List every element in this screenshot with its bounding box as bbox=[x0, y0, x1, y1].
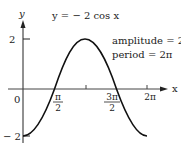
tick-label-3pi-half-den: 2 bbox=[109, 103, 115, 113]
tick-label-pi-half-den: 2 bbox=[55, 103, 61, 113]
x-axis-label: x bbox=[172, 83, 178, 94]
tick-label-3pi-half-num: 3π bbox=[106, 92, 118, 102]
origin-label: 0 bbox=[14, 94, 20, 105]
x-axis-arrow-icon bbox=[160, 87, 168, 92]
y-tick-label-neg2: − 2 bbox=[3, 131, 21, 142]
amplitude-annotation: amplitude = 2 bbox=[112, 35, 181, 46]
period-annotation: period = 2π bbox=[112, 49, 173, 60]
y-tick-label-2: 2 bbox=[9, 34, 15, 45]
y-axis-label: y bbox=[18, 8, 25, 19]
tick-label-pi-half-num: π bbox=[55, 92, 61, 102]
cosine-chart: y y = − 2 cos x 2 − 2 0 x amplitude = 2 … bbox=[0, 0, 181, 148]
equation-label: y = − 2 cos x bbox=[51, 10, 119, 21]
y-axis-arrow-icon bbox=[21, 20, 26, 28]
tick-label-2pi: 2π bbox=[144, 92, 156, 102]
